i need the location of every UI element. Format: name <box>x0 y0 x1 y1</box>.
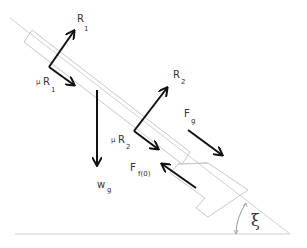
svg-text:R: R <box>43 76 50 87</box>
svg-text:1: 1 <box>84 25 88 33</box>
rod-outline <box>24 30 190 164</box>
svg-text:F: F <box>130 162 136 173</box>
incline-line <box>10 18 290 234</box>
Ff0-label: F f(0) <box>130 162 151 178</box>
R1-label: R 1 <box>77 13 88 33</box>
svg-text:w: w <box>97 179 105 190</box>
svg-text:1: 1 <box>51 86 55 94</box>
muR2-arrow <box>134 131 158 149</box>
muR1-label: μ R 1 <box>36 76 55 94</box>
muR2-label: μ R 2 <box>111 134 130 151</box>
svg-text:2: 2 <box>181 78 185 86</box>
svg-text:f(0): f(0) <box>138 170 151 178</box>
svg-text:g: g <box>191 117 195 125</box>
Fg-label: F g <box>184 108 195 125</box>
R1-arrow <box>49 31 74 67</box>
angle-arc <box>236 203 246 234</box>
svg-text:μ: μ <box>111 136 116 144</box>
svg-text:μ: μ <box>36 78 41 86</box>
svg-text:g: g <box>107 186 111 194</box>
R2-label: R 2 <box>173 69 185 86</box>
svg-text:R: R <box>118 134 125 145</box>
svg-text:R: R <box>173 69 180 80</box>
muR1-arrow <box>49 67 74 85</box>
svg-text:F: F <box>184 108 190 119</box>
svg-text:2: 2 <box>126 143 130 151</box>
angle-label: ξ <box>251 211 260 230</box>
wg-label: w g <box>97 179 111 194</box>
Fg-arrow <box>188 130 222 155</box>
svg-text:R: R <box>77 13 84 24</box>
free-body-diagram: ξ R 1 μ R 1 w g R 2 μ R 2 F g F f(0) <box>0 0 307 248</box>
R2-arrow <box>134 88 167 131</box>
Ff0-arrow <box>162 164 196 188</box>
